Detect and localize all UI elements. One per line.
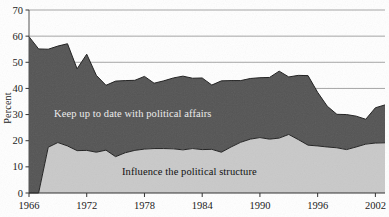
x-tick-label-2002: 2002 <box>365 200 386 211</box>
y-tick-label-30: 30 <box>13 109 24 120</box>
series-label-influence-structure: Influence the political structure <box>122 166 257 177</box>
y-tick-label-40: 40 <box>13 83 24 94</box>
y-tick-label-0: 0 <box>18 188 23 199</box>
stacked-area-chart: 010203040506070 196619721978198419901996… <box>0 0 389 217</box>
y-tick-label-70: 70 <box>13 5 24 16</box>
y-tick-label-10: 10 <box>13 161 24 172</box>
y-axis-title: Percent <box>2 92 13 123</box>
y-tick-label-20: 20 <box>13 135 24 146</box>
x-tick-label-1978: 1978 <box>134 200 155 211</box>
x-tick-label-1972: 1972 <box>76 200 97 211</box>
y-tick-label-50: 50 <box>13 57 24 68</box>
y-tick-label-60: 60 <box>13 31 24 42</box>
x-tick-label-1984: 1984 <box>192 200 214 211</box>
x-tick-label-1966: 1966 <box>19 200 40 211</box>
x-tick-label-1996: 1996 <box>307 200 328 211</box>
x-tick-label-1990: 1990 <box>249 200 270 211</box>
series-label-keep-up-to-date: Keep up to date with political affairs <box>54 108 212 119</box>
chart-container: 010203040506070 196619721978198419901996… <box>0 0 389 217</box>
